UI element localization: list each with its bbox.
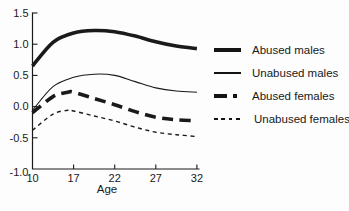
legend: Abused males Unabused males Abused femal…	[214, 43, 349, 135]
legend-item-unabused-males: Unabused males	[214, 66, 349, 80]
y-tick-label: -0.5	[10, 132, 29, 144]
legend-item-abused-females: Abused females	[214, 89, 349, 103]
legend-label-unabused-females: Unabused females	[254, 112, 349, 126]
y-tick-label: 1.0	[13, 38, 28, 50]
thick-solid-line-icon	[214, 48, 241, 52]
y-tick-label: 0.5	[13, 69, 28, 81]
thin-solid-line-icon	[214, 72, 241, 73]
x-tick-label: 27	[150, 172, 162, 184]
x-tick-label: 22	[109, 172, 121, 184]
series-unabused-females	[33, 110, 197, 137]
legend-label-unabused-males: Unabused males	[252, 66, 338, 80]
y-tick-label: 1.5	[13, 7, 28, 19]
legend-label-abused-females: Abused females	[252, 89, 334, 103]
legend-label-abused-males: Abused males	[252, 43, 325, 57]
x-tick-label: 32	[191, 172, 203, 184]
legend-item-abused-males: Abused males	[214, 43, 349, 57]
thick-dashed-line-icon	[214, 94, 241, 98]
x-axis-title: Age	[97, 183, 117, 195]
series-abused-females	[33, 92, 197, 121]
thin-dashed-line-icon	[214, 118, 243, 120]
series-abused-males	[33, 30, 197, 66]
y-tick-label: 0.0	[13, 100, 28, 112]
x-tick-label: 10	[26, 172, 38, 184]
legend-item-unabused-females: Unabused females	[214, 112, 349, 126]
line-chart-figure: 1.51.00.50.0-0.5-1.01017222732Age Abused…	[0, 0, 349, 211]
x-tick-label: 17	[67, 172, 79, 184]
